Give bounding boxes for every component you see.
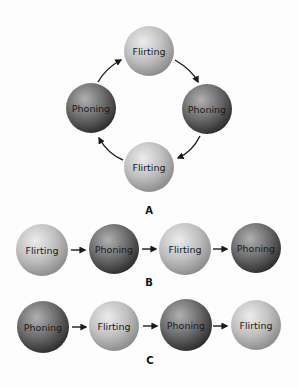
node-flirting: Flirting (89, 301, 139, 351)
node-phoning: Phoning (66, 83, 116, 133)
node-phoning: Phoning (17, 301, 69, 353)
node-label: Flirting (97, 321, 130, 332)
node-label: Phoning (72, 103, 110, 114)
panel-label-a: A (145, 205, 153, 216)
panel-label-b: B (145, 277, 153, 288)
node-label: Phoning (237, 243, 275, 254)
node-phoning: Phoning (182, 84, 232, 134)
arrow-bottom-to-left (99, 138, 123, 160)
node-label: Phoning (24, 322, 62, 333)
node-label: Flirting (132, 162, 165, 173)
arrow-left-to-top (98, 60, 121, 82)
node-flirting: Flirting (231, 300, 281, 350)
node-flirting: Flirting (16, 224, 68, 276)
node-label: Flirting (168, 244, 201, 255)
node-label: Flirting (25, 245, 58, 256)
node-phoning: Phoning (231, 223, 281, 273)
node-label: Phoning (188, 104, 226, 115)
node-flirting: Flirting (159, 223, 211, 275)
node-label: Flirting (132, 46, 165, 57)
node-phoning: Phoning (160, 299, 212, 351)
node-label: Phoning (167, 320, 205, 331)
node-flirting: Flirting (124, 26, 174, 76)
panel-a: Flirting Phoning Flirting Phoning A (66, 26, 232, 216)
panel-b: Flirting Phoning Flirting Phoning B (16, 223, 281, 288)
panel-c: Phoning Flirting Phoning Flirting C (17, 299, 281, 366)
node-label: Flirting (239, 320, 272, 331)
panel-label-c: C (146, 355, 153, 366)
node-label: Phoning (95, 244, 133, 255)
behavior-sequence-diagram: Flirting Phoning Flirting Phoning A Flir… (0, 0, 298, 388)
arrow-right-to-bottom (178, 136, 200, 158)
node-phoning: Phoning (89, 224, 139, 274)
node-flirting: Flirting (124, 142, 174, 192)
arrow-top-to-right (175, 60, 198, 82)
